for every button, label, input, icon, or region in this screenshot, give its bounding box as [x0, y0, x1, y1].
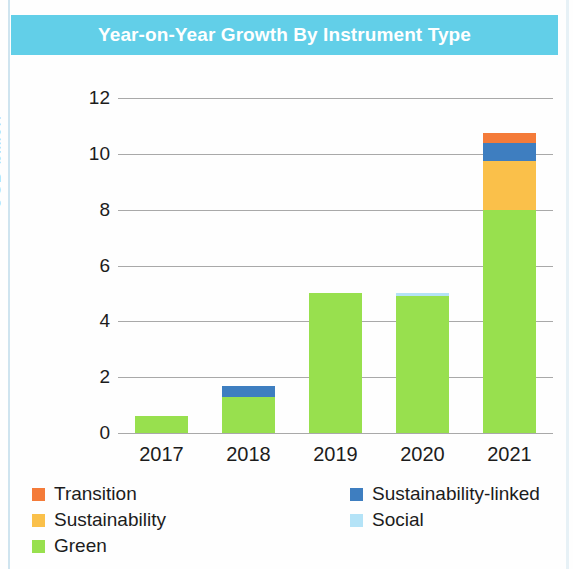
- bar-2020[interactable]: [396, 293, 449, 433]
- chart-title: Year-on-Year Growth By Instrument Type: [98, 24, 471, 46]
- legend-item[interactable]: Transition: [32, 481, 166, 507]
- legend-item[interactable]: Green: [32, 533, 166, 559]
- legend-item[interactable]: Sustainability: [32, 507, 166, 533]
- legend-item[interactable]: Sustainability-linked: [350, 481, 540, 507]
- bar-2021[interactable]: [483, 133, 536, 433]
- bar-segment-green[interactable]: [222, 397, 275, 433]
- bar-segment-green[interactable]: [309, 293, 362, 433]
- legend-label: Green: [54, 535, 107, 557]
- y-axis-tick-label: 8: [70, 199, 110, 221]
- legend-label: Transition: [54, 483, 137, 505]
- legend-swatch-icon: [32, 488, 45, 501]
- bar-segment-green[interactable]: [396, 296, 449, 433]
- y-axis-tick-label: 6: [70, 255, 110, 277]
- y-axis-tick-labels: 121086420: [58, 98, 110, 433]
- x-axis-tick-labels: 20172018201920202021: [118, 443, 553, 471]
- bar-segment-green[interactable]: [483, 210, 536, 433]
- x-axis-tick-label: 2017: [119, 443, 205, 466]
- legend-swatch-icon: [32, 540, 45, 553]
- legend: TransitionSustainabilityGreen Sustainabi…: [32, 481, 552, 557]
- gridline: [118, 433, 553, 434]
- legend-swatch-icon: [32, 514, 45, 527]
- bar-segment-transition[interactable]: [483, 133, 536, 143]
- bar-segment-green[interactable]: [135, 416, 188, 433]
- bar-2018[interactable]: [222, 386, 275, 433]
- legend-column-right: Sustainability-linkedSocial: [350, 481, 540, 533]
- bar-segment-sustainability[interactable]: [483, 161, 536, 210]
- bar-group: [118, 98, 553, 433]
- legend-swatch-icon: [350, 514, 363, 527]
- y-axis-tick-label: 4: [70, 310, 110, 332]
- y-axis-tick-label: 0: [70, 422, 110, 444]
- y-axis-tick-label: 2: [70, 366, 110, 388]
- legend-label: Sustainability-linked: [372, 483, 540, 505]
- legend-swatch-icon: [350, 488, 363, 501]
- y-axis-tick-label: 10: [70, 143, 110, 165]
- legend-item[interactable]: Social: [350, 507, 540, 533]
- chart-title-banner: Year-on-Year Growth By Instrument Type: [11, 15, 558, 55]
- bar-segment-sustainability-linked[interactable]: [222, 386, 275, 397]
- bar-segment-sustainability-linked[interactable]: [483, 143, 536, 161]
- page-edge-right: [566, 0, 569, 569]
- x-axis-tick-label: 2019: [293, 443, 379, 466]
- y-axis-title: USD billion: [0, 116, 5, 210]
- x-axis-tick-label: 2020: [380, 443, 466, 466]
- page-edge-left: [8, 0, 10, 569]
- x-axis-tick-label: 2018: [206, 443, 292, 466]
- legend-label: Social: [372, 509, 424, 531]
- x-axis-tick-label: 2021: [467, 443, 553, 466]
- legend-label: Sustainability: [54, 509, 166, 531]
- bar-2019[interactable]: [309, 293, 362, 433]
- legend-column-left: TransitionSustainabilityGreen: [32, 481, 166, 559]
- bar-2017[interactable]: [135, 416, 188, 433]
- chart-page: Year-on-Year Growth By Instrument Type U…: [0, 0, 573, 569]
- y-axis-tick-label: 12: [70, 87, 110, 109]
